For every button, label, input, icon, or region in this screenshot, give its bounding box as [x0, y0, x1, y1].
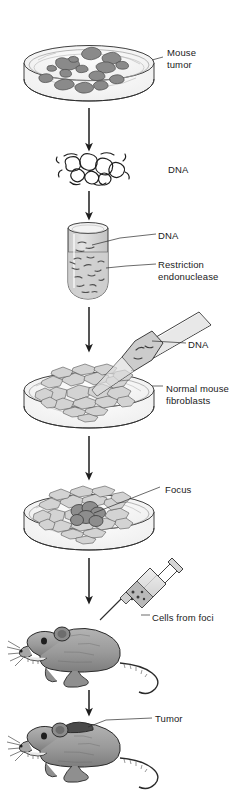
label-restriction-line2: endonuclease: [158, 271, 218, 282]
step-focus: [24, 486, 160, 550]
step-injection: [7, 558, 183, 693]
label-fibroblasts-line2: fibroblasts: [166, 395, 210, 406]
syringe-icon: [100, 558, 183, 620]
dna-tangle-icon: [56, 153, 129, 186]
step-dna: [56, 153, 164, 186]
label-fibroblasts-line1: Normal mouse: [166, 383, 229, 394]
label-restriction-endonuclease: Restriction endonuclease: [158, 259, 238, 282]
label-restriction-line1: Restriction: [158, 259, 204, 270]
label-cells-from-foci: Cells from foci: [152, 612, 214, 624]
label-mouse-tumor-line1: Mouse: [167, 47, 196, 58]
label-dna-tube: DNA: [158, 230, 178, 242]
label-dna-pipette: DNA: [188, 339, 208, 351]
leader-line-mouse-tumor: [152, 57, 163, 60]
label-normal-mouse-fibroblasts: Normal mouse fibroblasts: [166, 383, 240, 406]
label-mouse-tumor: Mouse tumor: [167, 47, 196, 70]
label-focus: Focus: [165, 484, 191, 496]
step-mouse-tumor: [24, 46, 163, 102]
leader-line-restriction: [106, 264, 156, 268]
step-tumor-formation: [7, 718, 158, 788]
step-restriction-digest: [68, 223, 156, 300]
step-transfection: [24, 312, 211, 428]
mouse-icon-tumor: [7, 722, 158, 788]
label-dna-tangle: DNA: [168, 164, 188, 176]
mouse-icon-injected: [7, 627, 158, 693]
label-tumor: Tumor: [155, 713, 183, 725]
label-mouse-tumor-line2: tumor: [167, 59, 192, 70]
